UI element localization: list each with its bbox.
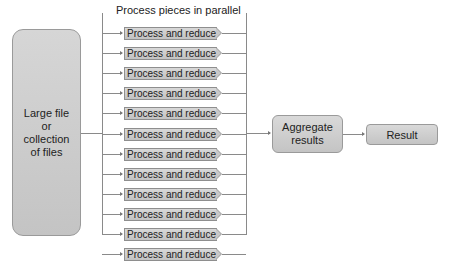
arrowhead-icon: [120, 232, 123, 236]
chevron-fill: [216, 169, 221, 179]
aggregate-connector: [246, 133, 270, 134]
process-step: Process and reduce: [124, 47, 221, 60]
process-step: Process and reduce: [124, 148, 221, 161]
branch-in-line: [102, 33, 122, 34]
chevron-fill: [216, 149, 221, 159]
branch-in-line: [102, 134, 122, 135]
branch-in-line: [102, 214, 122, 215]
chevron-fill: [216, 189, 221, 199]
aggregate-line: results: [282, 134, 333, 147]
branch-out-line: [222, 134, 246, 135]
process-step-label: Process and reduce: [124, 128, 217, 141]
process-step-label: Process and reduce: [124, 47, 217, 60]
process-step: Process and reduce: [124, 168, 221, 181]
branch-in-line: [102, 73, 122, 74]
process-step: Process and reduce: [124, 228, 221, 241]
branch-out-line: [222, 93, 246, 94]
arrowhead-icon: [362, 132, 365, 136]
arrowhead-icon: [120, 31, 123, 35]
process-step-label: Process and reduce: [124, 208, 217, 221]
process-step-label: Process and reduce: [124, 87, 217, 100]
branch-out-line: [222, 33, 246, 34]
branch-in-line: [102, 254, 122, 255]
source-line: Large file: [24, 107, 70, 120]
branch-in-line: [102, 93, 122, 94]
diagram-title: Process pieces in parallel: [116, 4, 241, 16]
chevron-fill: [216, 209, 221, 219]
process-step: Process and reduce: [124, 188, 221, 201]
process-step-label: Process and reduce: [124, 67, 217, 80]
branch-in-line: [102, 174, 122, 175]
source-line: of files: [24, 146, 70, 159]
result-connector: [343, 134, 364, 135]
chevron-fill: [216, 108, 221, 118]
arrowhead-icon: [120, 152, 123, 156]
process-step: Process and reduce: [124, 67, 221, 80]
branch-out-line: [222, 174, 246, 175]
source-connector: [81, 133, 102, 134]
process-step-label: Process and reduce: [124, 148, 217, 161]
process-step: Process and reduce: [124, 27, 221, 40]
branch-out-line: [222, 113, 246, 114]
process-step: Process and reduce: [124, 128, 221, 141]
process-step-label: Process and reduce: [124, 168, 217, 181]
process-step-label: Process and reduce: [124, 248, 217, 261]
arrowhead-icon: [120, 172, 123, 176]
process-step: Process and reduce: [124, 248, 221, 261]
chevron-fill: [216, 249, 221, 259]
process-step: Process and reduce: [124, 107, 221, 120]
branch-in-line: [102, 113, 122, 114]
arrowhead-icon: [120, 111, 123, 115]
source-line: or: [24, 120, 70, 133]
arrowhead-icon: [120, 252, 123, 256]
chevron-fill: [216, 229, 221, 239]
branch-out-line: [222, 214, 246, 215]
aggregate-node: Aggregate results: [272, 115, 343, 153]
arrowhead-icon: [120, 51, 123, 55]
branch-out-line: [222, 234, 246, 235]
branch-in-line: [102, 194, 122, 195]
branch-in-line: [102, 154, 122, 155]
branch-out-line: [222, 154, 246, 155]
source-node: Large file or collection of files: [12, 29, 81, 236]
result-node: Result: [366, 124, 438, 145]
process-step-label: Process and reduce: [124, 107, 217, 120]
process-step: Process and reduce: [124, 208, 221, 221]
process-step: Process and reduce: [124, 87, 221, 100]
chevron-fill: [216, 68, 221, 78]
branch-out-line: [222, 254, 246, 255]
chevron-fill: [216, 88, 221, 98]
chevron-fill: [216, 48, 221, 58]
branch-out-line: [222, 194, 246, 195]
chevron-fill: [216, 129, 221, 139]
arrowhead-icon: [268, 131, 271, 135]
process-step-label: Process and reduce: [124, 188, 217, 201]
source-line: collection: [24, 133, 70, 146]
branch-out-line: [222, 73, 246, 74]
arrowhead-icon: [120, 212, 123, 216]
arrowhead-icon: [120, 71, 123, 75]
arrowhead-icon: [120, 192, 123, 196]
left-trunk: [102, 13, 103, 235]
right-trunk: [246, 13, 247, 235]
arrowhead-icon: [120, 132, 123, 136]
arrowhead-icon: [120, 91, 123, 95]
aggregate-line: Aggregate: [282, 121, 333, 134]
process-step-label: Process and reduce: [124, 27, 217, 40]
chevron-fill: [216, 28, 221, 38]
branch-out-line: [222, 53, 246, 54]
branch-in-line: [102, 53, 122, 54]
process-step-label: Process and reduce: [124, 228, 217, 241]
branch-in-line: [102, 234, 122, 235]
